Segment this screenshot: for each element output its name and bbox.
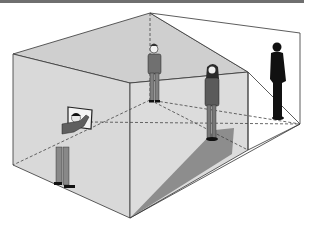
room-illustration	[0, 0, 312, 229]
room-box	[13, 13, 300, 218]
diagram-canvas	[0, 0, 312, 229]
